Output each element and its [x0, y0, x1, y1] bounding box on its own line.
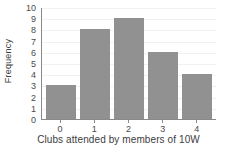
- y-axis-tick-label: 1: [31, 104, 36, 113]
- bar-slot: [112, 8, 146, 119]
- x-axis-tick-label: 1: [92, 124, 97, 134]
- tick-mark: [162, 120, 163, 123]
- y-axis-tick-label: 3: [31, 82, 36, 91]
- y-axis-tick-label: 7: [31, 37, 36, 46]
- y-axis-tick-label: 6: [31, 48, 36, 57]
- x-axis-tick-label: 2: [126, 124, 131, 134]
- x-axis-tick: 4: [180, 120, 214, 134]
- y-axis-tick-label: 4: [31, 71, 36, 80]
- x-axis-tick-labels: 01234: [41, 120, 216, 134]
- x-axis-title: Clubs attended by members of 10W: [16, 134, 221, 145]
- bar-2: [114, 18, 144, 119]
- bar-chart: Frequency 012345678910 01234 Clubs atten…: [0, 0, 227, 156]
- y-axis-title: Frequency: [0, 0, 16, 122]
- y-axis-tick-label: 9: [31, 15, 36, 24]
- x-axis-tick-label: 3: [160, 124, 165, 134]
- x-axis-tick-label: 0: [58, 124, 63, 134]
- x-axis-tick: 3: [146, 120, 180, 134]
- x-axis-tick: 2: [111, 120, 145, 134]
- bar-slot: [180, 8, 214, 119]
- tick-mark: [196, 120, 197, 123]
- y-axis-tick-label: 2: [31, 93, 36, 102]
- x-axis-tick-label: 4: [194, 124, 199, 134]
- bar-series: [42, 8, 216, 119]
- bar-slot: [44, 8, 78, 119]
- bar-0: [46, 85, 76, 119]
- x-axis-tick: 0: [43, 120, 77, 134]
- y-axis-tick-label: 8: [31, 26, 36, 35]
- bar-1: [80, 29, 110, 119]
- x-axis-tick: 1: [77, 120, 111, 134]
- bar-3: [148, 52, 178, 119]
- bar-slot: [78, 8, 112, 119]
- bar-slot: [146, 8, 180, 119]
- tick-mark: [128, 120, 129, 123]
- bar-4: [182, 74, 212, 119]
- tick-mark: [60, 120, 61, 123]
- tick-mark: [94, 120, 95, 123]
- y-axis-tick-label: 10: [26, 4, 36, 13]
- y-axis-tick-label: 0: [31, 116, 36, 125]
- y-axis-tick-labels: 012345678910: [16, 8, 38, 120]
- y-axis-tick-label: 5: [31, 60, 36, 69]
- plot-area: [41, 8, 216, 120]
- y-axis-title-text: Frequency: [3, 39, 13, 83]
